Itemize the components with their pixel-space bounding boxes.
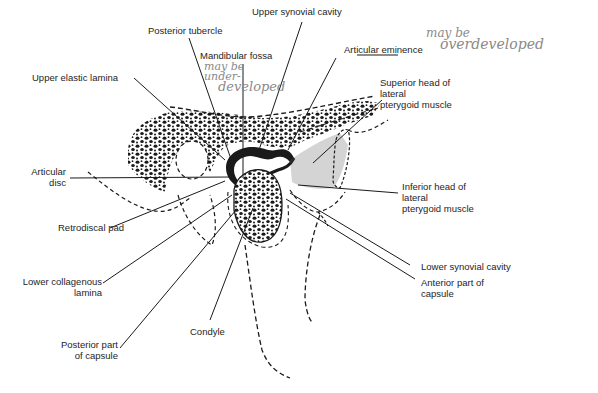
tmj-diagram [0, 0, 598, 393]
label-anterior-capsule: Anterior part of capsule [421, 277, 484, 299]
handwritten-note-eminence-line2: overdeveloped [424, 39, 544, 50]
handwritten-note-eminence: may be overdeveloped [424, 28, 544, 50]
label-lower-collagenous-line1: Lower collagenous [10, 276, 102, 287]
label-posterior-tubercle: Posterior tubercle [148, 25, 222, 36]
label-lower-synovial-cavity: Lower synovial cavity [421, 261, 511, 272]
label-inferior-head-line2: lateral [402, 192, 474, 203]
label-lower-collagenous-line2: lamina [10, 287, 102, 298]
handwritten-note-fossa: may be under- developed [204, 62, 285, 92]
label-upper-synovial-cavity: Upper synovial cavity [252, 6, 342, 17]
label-inferior-head-line1: Inferior head of [402, 181, 474, 192]
condyle-shape [228, 170, 328, 378]
label-anterior-capsule-line1: Anterior part of [421, 277, 484, 288]
label-superior-head: Superior head of lateral pterygoid muscl… [380, 77, 452, 110]
label-posterior-capsule-line2: of capsule [40, 350, 118, 361]
label-articular-eminence: Articular eminence [344, 44, 423, 55]
label-articular-disc-line1: Articular [22, 166, 66, 177]
label-superior-head-line2: lateral [380, 88, 452, 99]
label-lower-collagenous-lamina: Lower collagenous lamina [10, 276, 102, 298]
label-articular-disc: Articular disc [22, 166, 66, 188]
label-superior-head-line1: Superior head of [380, 77, 452, 88]
label-upper-elastic-lamina: Upper elastic lamina [32, 72, 118, 83]
handwritten-note-fossa-line3: developed [204, 82, 285, 92]
label-posterior-capsule: Posterior part of capsule [40, 339, 118, 361]
label-inferior-head: Inferior head of lateral pterygoid muscl… [402, 181, 474, 214]
label-inferior-head-line3: pterygoid muscle [402, 203, 474, 214]
label-posterior-capsule-line1: Posterior part [40, 339, 118, 350]
label-anterior-capsule-line2: capsule [421, 288, 484, 299]
label-superior-head-line3: pterygoid muscle [380, 99, 452, 110]
label-articular-disc-line2: disc [22, 177, 66, 188]
label-retrodiscal-pad: Retrodiscal pad [58, 222, 124, 233]
label-condyle: Condyle [190, 326, 225, 337]
